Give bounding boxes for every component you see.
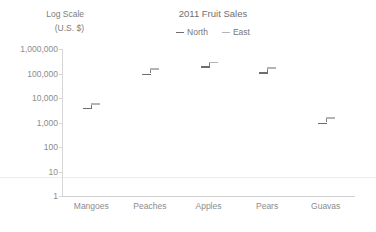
chart-legend: North East (148, 27, 278, 37)
x-tick-label: Mangoes (74, 201, 109, 211)
y-axis-title-line2: (U.S. $) (8, 23, 84, 33)
legend-swatch-east (222, 32, 230, 33)
chart-title: 2011 Fruit Sales (148, 8, 278, 19)
marker-dash-north (142, 74, 151, 76)
y-tick-label: 100,000 (0, 69, 58, 79)
plot-area (62, 49, 355, 196)
x-tick-label: Apples (196, 201, 222, 211)
y-tick-mark (59, 196, 62, 197)
legend-label-east: East (233, 27, 250, 37)
legend-swatch-north (176, 32, 184, 33)
marker-dash-north (318, 123, 327, 125)
marker-dash-east (326, 117, 335, 119)
y-tick-label: 1 (0, 191, 58, 201)
x-tick-label: Pears (256, 201, 278, 211)
fruit-sales-chart: 2011 Fruit Sales North East Log Scale (U… (0, 0, 376, 232)
legend-item-east[interactable]: East (222, 27, 250, 37)
marker-dash-east (267, 67, 276, 69)
y-tick-label: 1,000 (0, 118, 58, 128)
marker-dash-north (259, 72, 268, 74)
marker-dash-east (150, 68, 159, 70)
x-axis-line (62, 196, 355, 197)
marker-dash-east (209, 62, 218, 64)
marker-dash-north (201, 66, 210, 68)
x-tick-label: Guavas (311, 201, 340, 211)
y-axis-title-line1: Log Scale (8, 9, 84, 19)
marker-dash-north (83, 108, 92, 110)
y-tick-label: 10 (0, 167, 58, 177)
y-tick-label: 1,000,000 (0, 44, 58, 54)
legend-item-north[interactable]: North (176, 27, 208, 37)
y-tick-label: 100 (0, 142, 58, 152)
y-tick-label: 10,000 (0, 93, 58, 103)
marker-dash-east (91, 103, 100, 105)
x-tick-label: Peaches (133, 201, 166, 211)
legend-label-north: North (187, 27, 208, 37)
